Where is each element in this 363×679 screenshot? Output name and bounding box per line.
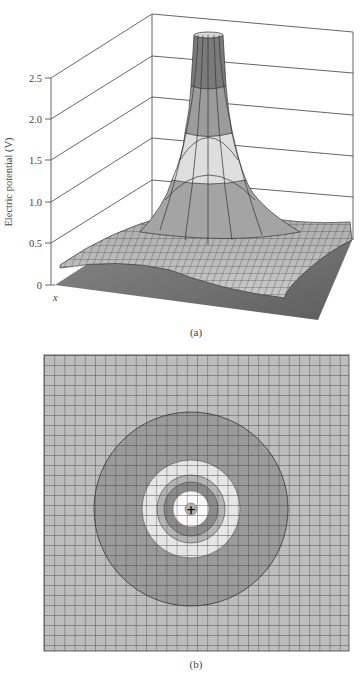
panel-b-caption: (b) [190,658,203,671]
panel-a-surface-plot: 2.5 2.0 1.5 1.0 0.5 0 Electric potential… [3,14,353,339]
ytick-1.0: 1.0 [29,197,42,208]
y-axis-label: Electric potential (V) [3,137,15,227]
panel-b-contour-plot: + (b) [44,355,349,671]
ytick-0: 0 [37,280,42,291]
z-axis-ticks [45,78,55,285]
ytick-2.0: 2.0 [29,114,42,125]
figure: 2.5 2.0 1.5 1.0 0.5 0 Electric potential… [0,0,363,679]
positive-charge-icon: + [186,503,196,517]
potential-peak [140,32,300,245]
x-axis-label: x [52,292,58,303]
ytick-2.5: 2.5 [29,73,42,84]
ytick-1.5: 1.5 [29,155,42,166]
panel-a-caption: (a) [190,326,203,339]
ytick-0.5: 0.5 [29,238,42,249]
grid-lines [44,355,349,651]
